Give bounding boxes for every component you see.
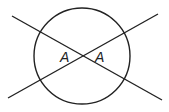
angle-label-right: A xyxy=(94,49,104,65)
vertical-angles-diagram: A A xyxy=(0,0,169,112)
angle-label-left: A xyxy=(59,49,69,65)
